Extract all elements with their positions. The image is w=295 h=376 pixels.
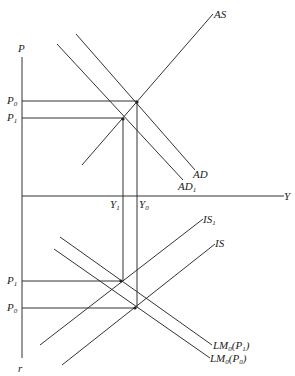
y1-label: Y1 bbox=[110, 198, 120, 212]
r-axis-label: r bbox=[18, 362, 23, 374]
as-label: AS bbox=[213, 8, 227, 20]
islm-0-point bbox=[133, 306, 136, 309]
lm-p0-label: LM0(P0) bbox=[209, 352, 247, 366]
lm-p1-label: LM0(P1) bbox=[212, 339, 250, 353]
ad-label: AD bbox=[192, 168, 208, 180]
equilibrium-1-point bbox=[121, 117, 124, 120]
lm-p1-curve bbox=[60, 237, 212, 345]
lower-p1-label: P1 bbox=[6, 274, 17, 288]
p-axis-label: P bbox=[17, 42, 25, 54]
equilibrium-0-point bbox=[135, 100, 138, 103]
p0-label: P0 bbox=[6, 94, 18, 108]
ad1-label: AD1 bbox=[177, 180, 196, 194]
p1-label: P1 bbox=[6, 111, 17, 125]
lower-p0-label: P0 bbox=[6, 301, 18, 315]
lm-p0-curve bbox=[54, 249, 210, 358]
y-axis-label: Y bbox=[284, 190, 292, 202]
is-curve bbox=[62, 244, 215, 365]
ad1-curve bbox=[57, 44, 183, 180]
is1-label: IS1 bbox=[202, 213, 216, 227]
y0-label: Y0 bbox=[139, 198, 149, 212]
is-label: IS bbox=[214, 237, 225, 249]
islm-1-point bbox=[119, 279, 122, 282]
diagram-canvas: P r Y P0 P1 Y1 Y0 AS AD AD1 P1 P0 IS1 IS… bbox=[0, 0, 295, 376]
